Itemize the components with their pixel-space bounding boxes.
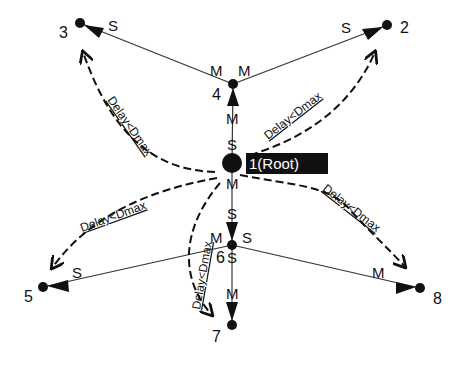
node-label-8: 8: [433, 290, 442, 307]
link-4-2: [233, 25, 387, 84]
arrow-to-4: [227, 88, 239, 106]
network-topology-diagram: Delay<Dmax Delay<Dmax Delay<Dmax Delay<D…: [0, 0, 469, 369]
arrow-to-2: [362, 27, 383, 40]
delay-label-1-8: Delay<Dmax: [320, 181, 383, 235]
root-label-text: 1(Root): [249, 155, 299, 172]
delay-label-1-5: Delay<Dmax: [78, 198, 148, 235]
arrow-to-8: [396, 282, 416, 294]
arrow-to-5: [47, 280, 69, 292]
role-s-near-5: S: [72, 264, 82, 281]
delay-label-1-2: Delay<Dmax: [261, 89, 324, 143]
role-m-4-below: M: [226, 110, 239, 127]
node-3[interactable]: [75, 18, 85, 28]
arrow-to-7: [226, 302, 238, 321]
role-s-near-3: S: [108, 17, 118, 34]
role-m-4-right: M: [238, 62, 251, 79]
arrow-to-3: [84, 25, 104, 38]
node-1-root[interactable]: [222, 153, 242, 173]
link-6-8: [232, 245, 420, 288]
role-m-6-left: M: [210, 229, 223, 246]
role-m-1-below: M: [226, 175, 239, 192]
node-2[interactable]: [382, 20, 392, 30]
node-4[interactable]: [228, 79, 238, 89]
role-s-6-above: S: [227, 205, 237, 222]
arrow-to-6: [226, 222, 238, 241]
node-label-4: 4: [212, 86, 221, 103]
node-7[interactable]: [227, 320, 237, 330]
node-label-3: 3: [59, 24, 68, 41]
delay-label-1-3: Delay<Dmax: [105, 94, 156, 159]
node-label-6: 6: [216, 249, 225, 266]
solid-links: [43, 23, 420, 325]
delay-edge-1-5: [52, 178, 217, 268]
node-5[interactable]: [38, 282, 48, 292]
role-s-1-above: S: [227, 136, 237, 153]
node-label-2: 2: [400, 19, 409, 36]
root-label: 1(Root): [246, 153, 328, 174]
role-m-4-left: M: [210, 62, 223, 79]
role-s-near-2: S: [341, 19, 351, 36]
node-8[interactable]: [415, 283, 425, 293]
role-m-near-8: M: [372, 264, 385, 281]
role-s-6-right: S: [242, 229, 252, 246]
role-m-7-above: M: [226, 285, 239, 302]
delay-label-1-7: Delay<Dmax: [189, 240, 215, 310]
node-label-5: 5: [24, 288, 33, 305]
node-label-7: 7: [212, 328, 221, 345]
role-s-6-below: S: [227, 249, 237, 266]
